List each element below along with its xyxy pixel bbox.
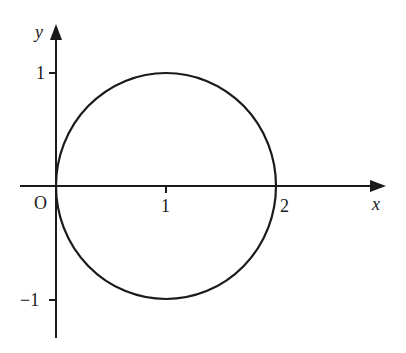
circle-diagram: y x O 1 −1 1 2	[0, 0, 406, 353]
y-axis-label: y	[33, 22, 43, 42]
x-tick-label-1: 1	[161, 196, 170, 216]
y-axis-arrow-icon	[50, 24, 62, 40]
x-axis-label: x	[371, 194, 380, 214]
y-tick-label-1: 1	[36, 63, 45, 83]
origin-label: O	[34, 193, 47, 213]
x-axis-arrow-icon	[370, 180, 386, 192]
y-tick-label-neg1: −1	[20, 290, 39, 310]
x-tick-label-2: 2	[280, 196, 289, 216]
